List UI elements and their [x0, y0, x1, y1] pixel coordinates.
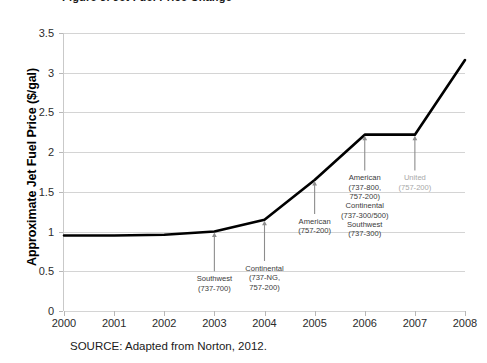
annotation-continental-737ng-757-200: Continental (737-NG, 757-200) — [231, 264, 299, 292]
x-tick-mark — [365, 311, 366, 316]
y-tick-label: 2.5 — [20, 106, 54, 118]
y-tick-label: 0 — [20, 305, 54, 317]
annotation-arrow-head — [412, 136, 417, 141]
figure-root: Figure 3. Jet Fuel Price Change Approxim… — [0, 0, 487, 363]
x-tick-mark — [465, 311, 466, 316]
figure-title-cropped: Figure 3. Jet Fuel Price Change — [62, 0, 362, 3]
y-tick-label: 3.5 — [20, 27, 54, 39]
x-tick-mark — [214, 311, 215, 316]
y-tick-mark — [59, 192, 63, 193]
series-line — [64, 60, 465, 236]
x-tick-mark — [114, 311, 115, 316]
x-tick-mark — [64, 311, 65, 316]
y-tick-mark — [59, 112, 63, 113]
y-tick-label: 1 — [20, 226, 54, 238]
y-tick-label: 2 — [20, 146, 54, 158]
y-tick-mark — [59, 271, 63, 272]
y-tick-label: 0.5 — [20, 265, 54, 277]
x-tick-label: 2008 — [435, 317, 487, 329]
y-tick-mark — [59, 232, 63, 233]
annotation-united-757-200: United (757-200) — [381, 173, 449, 192]
x-tick-mark — [265, 311, 266, 316]
y-tick-label: 3 — [20, 67, 54, 79]
y-tick-mark — [59, 311, 63, 312]
annotation-arrow-head — [212, 233, 217, 238]
source-note: SOURCE: Adapted from Norton, 2012. — [70, 340, 267, 352]
y-tick-label: 1.5 — [20, 186, 54, 198]
x-tick-mark — [415, 311, 416, 316]
x-tick-mark — [164, 311, 165, 316]
y-tick-mark — [59, 73, 63, 74]
plot-area: 00.511.522.533.5 20002001200220032004200… — [64, 33, 465, 311]
y-tick-mark — [59, 152, 63, 153]
x-tick-mark — [315, 311, 316, 316]
y-tick-mark — [59, 33, 63, 34]
